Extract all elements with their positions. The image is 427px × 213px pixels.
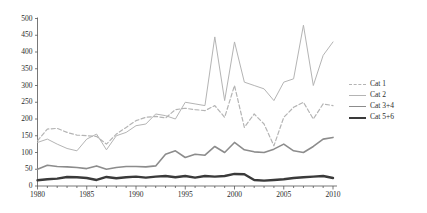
y-axis-tick-label: 350 (0, 65, 33, 73)
legend-swatch-icon (349, 101, 366, 110)
x-axis-tick-label: 1995 (173, 191, 197, 199)
y-axis-tick-label: 150 (0, 132, 33, 140)
y-axis-tick-label: 50 (0, 165, 33, 173)
x-axis-tick-label: 1990 (124, 191, 148, 199)
line-chart: 050100150200250300350400450500 198019851… (0, 0, 427, 213)
legend-item[interactable]: Cat 3+4 (349, 100, 425, 111)
legend-swatch-icon (349, 79, 366, 88)
series-line-0 (38, 86, 334, 146)
legend-swatch-icon (349, 112, 366, 121)
legend-item[interactable]: Cat 1 (349, 78, 425, 89)
series-line-2 (38, 137, 334, 169)
legend-label: Cat 3+4 (370, 102, 394, 110)
y-axis-tick-label: 400 (0, 48, 33, 56)
legend-item[interactable]: Cat 2 (349, 89, 425, 100)
x-axis-tick-label: 2005 (272, 191, 296, 199)
legend-label: Cat 2 (370, 91, 386, 99)
y-axis-tick-label: 200 (0, 115, 33, 123)
y-axis-tick-label: 0 (0, 182, 33, 190)
y-axis-tick-label: 250 (0, 98, 33, 106)
y-axis-tick-label: 450 (0, 31, 33, 39)
chart-legend: Cat 1Cat 2Cat 3+4Cat 5+6 (349, 78, 425, 122)
y-axis-tick-label: 500 (0, 15, 33, 23)
x-axis-tick-label: 1980 (26, 191, 50, 199)
legend-swatch-icon (349, 90, 366, 99)
legend-item[interactable]: Cat 5+6 (349, 111, 425, 122)
legend-label: Cat 5+6 (370, 113, 394, 121)
x-axis-tick-label: 1985 (75, 191, 99, 199)
series-line-3 (38, 174, 334, 181)
x-axis-tick-label: 2000 (223, 191, 247, 199)
y-axis-tick-label: 100 (0, 149, 33, 157)
y-axis-tick-label: 300 (0, 82, 33, 90)
legend-label: Cat 1 (370, 80, 386, 88)
x-axis-tick-label: 2010 (321, 191, 345, 199)
series-line-1 (38, 25, 334, 151)
